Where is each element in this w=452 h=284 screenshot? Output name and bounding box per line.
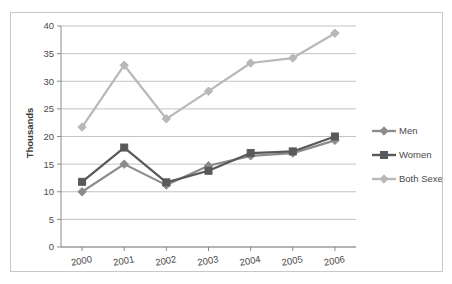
legend-label: Women — [399, 149, 432, 160]
chart-frame: 0510152025303540 20002001200220032004200… — [10, 12, 443, 272]
data-point-marker — [247, 150, 254, 157]
data-point-marker — [79, 178, 86, 185]
line-chart: 0510152025303540 20002001200220032004200… — [11, 13, 442, 271]
y-axis-tick-label: 40 — [43, 20, 54, 31]
series-men — [78, 136, 339, 196]
legend-label: Men — [399, 125, 417, 136]
y-axis-tick-label: 10 — [43, 186, 54, 197]
x-axis-tick-label: 2006 — [323, 253, 346, 268]
legend-label: Both Sexes — [399, 173, 442, 184]
legend-marker-icon — [381, 152, 388, 159]
legend-marker-icon — [380, 175, 388, 183]
data-point-marker — [163, 179, 170, 186]
x-axis-tick-label: 2001 — [112, 253, 135, 268]
x-axis-tick-labels: 2000200120022003200420052006 — [70, 253, 346, 268]
series-women — [79, 133, 339, 186]
data-point-marker — [289, 148, 296, 155]
gridlines — [61, 26, 356, 247]
data-series-group — [78, 29, 339, 196]
x-axis-tick-label: 2000 — [70, 253, 93, 268]
legend-marker-icon — [380, 127, 388, 135]
y-axis-tick-label: 30 — [43, 76, 54, 87]
y-axis-title: Thousands — [24, 108, 35, 159]
x-axis-tick-label: 2005 — [281, 253, 304, 268]
y-axis-tick-label: 15 — [43, 159, 54, 170]
y-axis-tick-label: 35 — [43, 48, 54, 59]
legend-item-men[interactable]: Men — [372, 125, 417, 136]
y-axis-tick-label: 20 — [43, 131, 54, 142]
data-point-marker — [205, 167, 212, 174]
y-axis-tick-labels: 0510152025303540 — [43, 20, 54, 252]
chart-legend: MenWomenBoth Sexes — [372, 125, 442, 184]
data-point-marker — [331, 133, 338, 140]
series-line — [82, 137, 335, 183]
legend-item-both-sexes[interactable]: Both Sexes — [372, 173, 442, 184]
x-axis-tick-label: 2002 — [154, 253, 177, 268]
y-axis-tick-label: 25 — [43, 103, 54, 114]
legend-item-women[interactable]: Women — [372, 149, 432, 160]
y-axis-tick-label: 0 — [49, 241, 54, 252]
data-point-marker — [121, 144, 128, 151]
x-axis-tick-label: 2004 — [239, 253, 262, 268]
x-axis-tick-label: 2003 — [197, 253, 220, 268]
y-axis-tick-label: 5 — [49, 214, 54, 225]
series-both-sexes — [78, 29, 339, 131]
axes — [57, 26, 356, 251]
series-line — [82, 33, 335, 127]
